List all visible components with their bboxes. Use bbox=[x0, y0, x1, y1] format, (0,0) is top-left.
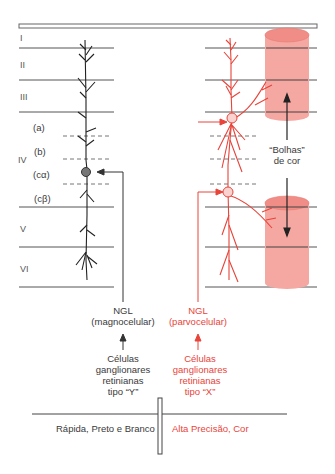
parvo-ganglion-label: Células ganglionares retinianas tipo “X” bbox=[160, 353, 240, 397]
magno-ganglion-label: Células ganglionares retinianas tipo “Y” bbox=[83, 353, 163, 397]
left-layer-lines bbox=[19, 48, 114, 287]
parvo-input-arrows bbox=[198, 119, 227, 302]
parvo-cell-body-lower bbox=[223, 187, 233, 197]
magno-cells-line2: ganglionares bbox=[83, 364, 163, 375]
magno-cell-body bbox=[82, 168, 91, 177]
parvo-cells-line3: retinianas bbox=[160, 375, 240, 386]
parvo-ngl-label: NGL (parvocelular) bbox=[158, 305, 238, 327]
parvo-property-label: Alta Precisão, Cor bbox=[172, 423, 249, 434]
layer-label-III: III bbox=[20, 92, 28, 103]
center-divider-bar bbox=[158, 398, 162, 454]
layer-label-IVb: (b) bbox=[34, 146, 46, 157]
layer-label-IVa: (a) bbox=[33, 122, 45, 133]
blobs-label: “Bolhas” de cor bbox=[260, 144, 314, 166]
parvo-retina-arrow bbox=[195, 334, 201, 350]
magno-cells-line3: retinianas bbox=[83, 375, 163, 386]
right-sublayer-dashed-lines bbox=[210, 136, 258, 184]
layer-label-VI: VI bbox=[20, 264, 29, 275]
parvo-cells-line1: Células bbox=[160, 353, 240, 364]
magno-neuron bbox=[76, 40, 97, 280]
layer-label-I: I bbox=[20, 33, 23, 44]
cortex-surface-bar bbox=[19, 24, 317, 28]
parvo-cells-line4: tipo “X” bbox=[160, 386, 240, 397]
magno-ngl-line2: (magnocelular) bbox=[83, 316, 163, 327]
magno-ngl-line1: NGL bbox=[83, 305, 163, 316]
magno-property-label: Rápida, Preto e Branco bbox=[56, 423, 155, 434]
parvo-cells-line2: ganglionares bbox=[160, 364, 240, 375]
layer-label-IV: IV bbox=[18, 155, 27, 166]
parvo-ngl-line1: NGL bbox=[158, 305, 238, 316]
visual-pathways-diagram bbox=[0, 0, 335, 474]
layer-label-IVcb: (cβ) bbox=[34, 193, 51, 204]
magno-input-arrow bbox=[97, 169, 123, 302]
magno-retina-arrow bbox=[120, 334, 126, 350]
layer-label-IVca: (cα) bbox=[33, 169, 50, 180]
magno-cells-line4: tipo “Y” bbox=[83, 386, 163, 397]
parvo-ngl-line2: (parvocelular) bbox=[158, 316, 238, 327]
magno-ngl-label: NGL (magnocelular) bbox=[83, 305, 163, 327]
blobs-label-line2: de cor bbox=[260, 155, 314, 166]
magno-cells-line1: Células bbox=[83, 353, 163, 364]
blobs-label-line1: “Bolhas” bbox=[260, 144, 314, 155]
layer-label-V: V bbox=[20, 224, 26, 235]
layer-label-II: II bbox=[20, 60, 25, 71]
parvo-cell-body-upper bbox=[227, 113, 237, 123]
